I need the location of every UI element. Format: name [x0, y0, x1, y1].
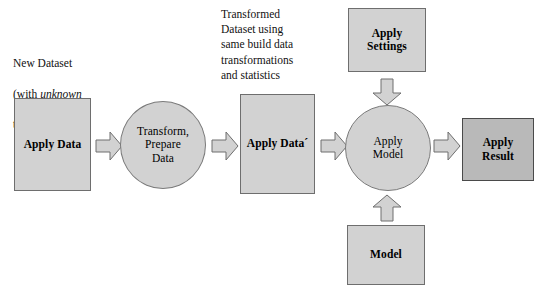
arrow-apply-model-to-apply-result-icon: [433, 131, 461, 161]
arrow-apply-data-prime-to-apply-model-icon: [320, 131, 348, 161]
node-model[interactable]: Model: [347, 225, 425, 285]
arrow-apply-settings-to-apply-model-icon: [372, 78, 402, 106]
node-apply-model[interactable]: Apply Model: [345, 105, 431, 191]
node-apply-settings[interactable]: Apply Settings: [348, 8, 426, 72]
caption-new-dataset-line1: New Dataset: [13, 57, 72, 69]
node-apply-result[interactable]: Apply Result: [462, 118, 534, 181]
arrow-model-to-apply-model-icon: [372, 194, 402, 222]
node-apply-data[interactable]: Apply Data: [14, 98, 91, 191]
node-transform-prepare-data[interactable]: Transform, Prepare Data: [120, 101, 206, 189]
arrow-apply-data-to-transform-icon: [95, 131, 123, 161]
diagram-canvas: New Dataset (with unknown target values)…: [0, 0, 542, 295]
node-apply-data-prime[interactable]: Apply Data´: [240, 94, 315, 194]
arrow-transform-to-apply-data-prime-icon: [211, 131, 239, 161]
caption-transformed-dataset: Transformed Dataset using same build dat…: [221, 7, 337, 83]
